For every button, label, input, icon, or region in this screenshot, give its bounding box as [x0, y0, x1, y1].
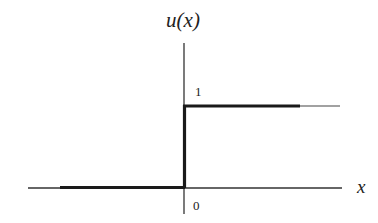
x-axis-label: x [356, 176, 366, 197]
tick-label-zero: 0 [193, 198, 200, 213]
tick-label-one: 1 [195, 84, 202, 99]
step-function-diagram: u(x) x 1 0 [0, 0, 378, 223]
y-axis-label: u(x) [166, 8, 200, 32]
